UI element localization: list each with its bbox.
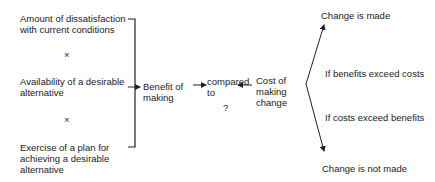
condition-benefits-exceed: If benefits exceed costs <box>325 68 424 79</box>
factor-plan: Exercise of a plan for achieving a desir… <box>20 142 109 175</box>
outcome-change-made: Change is made <box>321 10 390 21</box>
factors-bracket <box>128 19 135 147</box>
compared-to: compared to <box>207 76 249 98</box>
cost-of-making-change: Cost of making change <box>256 75 287 108</box>
benefit-of-making: Benefit of making <box>143 81 183 103</box>
factor-dissatisfaction: Amount of dissatisfaction with current c… <box>20 13 126 35</box>
outcome-change-not-made: Change is not made <box>322 163 407 174</box>
multiply-operator-1: × <box>64 49 70 60</box>
condition-costs-exceed: If costs exceed benefits <box>325 112 424 123</box>
arrow-to-change-made <box>306 25 324 84</box>
multiply-operator-2: × <box>64 114 70 125</box>
factor-availability: Availability of a desirable alternative <box>20 76 124 98</box>
question-mark: ? <box>223 102 228 113</box>
arrow-to-change-not-made <box>306 84 324 151</box>
